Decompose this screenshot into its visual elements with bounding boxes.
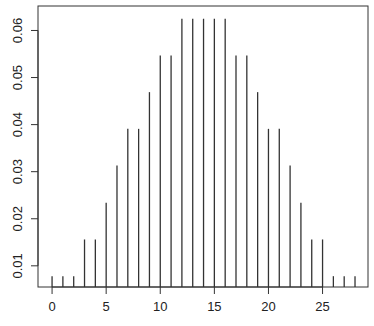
y-tick-label: 0.04 [10,112,25,137]
needle-chart: 0510152025 0.010.020.030.040.050.06 [0,0,374,326]
y-tick-label: 0.02 [10,206,25,231]
y-axis: 0.010.020.030.040.050.06 [10,18,38,279]
y-tick-label: 0.05 [10,65,25,90]
x-tick-label: 15 [207,299,221,314]
x-tick-label: 0 [48,299,55,314]
y-tick-label: 0.03 [10,159,25,184]
x-tick-label: 5 [103,299,110,314]
x-tick-label: 25 [315,299,329,314]
x-axis: 0510152025 [48,287,329,314]
x-tick-label: 20 [261,299,275,314]
y-tick-label: 0.06 [10,18,25,43]
y-tick-label: 0.01 [10,253,25,278]
data-needles [52,19,355,287]
x-tick-label: 10 [153,299,167,314]
